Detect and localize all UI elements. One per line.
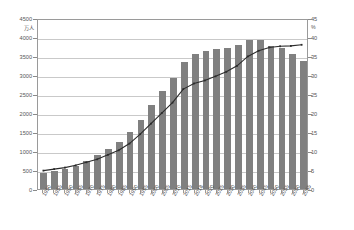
right-axis-tick-label: 20 xyxy=(311,111,333,117)
line-marker xyxy=(204,80,206,82)
line-marker xyxy=(193,83,195,85)
left-axis-tick xyxy=(33,133,37,134)
left-axis-tick xyxy=(33,19,37,20)
right-axis-tick-label: 30 xyxy=(311,73,333,79)
left-axis-tick xyxy=(33,190,37,191)
line-marker xyxy=(96,158,98,160)
line-marker xyxy=(215,75,217,77)
right-axis-tick-label: 45 xyxy=(311,16,333,22)
line-marker xyxy=(236,65,238,67)
line-marker xyxy=(301,44,303,46)
right-axis-tick xyxy=(308,19,312,20)
right-axis-tick xyxy=(308,190,312,191)
left-axis-tick xyxy=(33,38,37,39)
left-axis-tick xyxy=(33,76,37,77)
line-marker xyxy=(268,47,270,49)
line-marker xyxy=(53,168,55,170)
left-axis-tick xyxy=(33,171,37,172)
line-marker xyxy=(118,149,120,151)
line-marker xyxy=(290,45,292,47)
right-axis-tick xyxy=(308,171,312,172)
right-axis-tick xyxy=(308,76,312,77)
line-marker xyxy=(139,133,141,135)
right-axis-tick-label: 35 xyxy=(311,54,333,60)
line-marker xyxy=(161,112,163,114)
right-axis-tick xyxy=(308,38,312,39)
right-axis-tick-label: 25 xyxy=(311,92,333,98)
left-axis-unit-label: 万人 xyxy=(10,24,34,31)
line-marker xyxy=(75,164,77,166)
plot-area xyxy=(37,19,308,190)
left-axis-tick-label: 2000 xyxy=(6,111,32,117)
line-marker xyxy=(107,154,109,156)
left-axis-tick-label: 4500 xyxy=(6,16,32,22)
line-marker xyxy=(86,161,88,163)
line-marker xyxy=(182,88,184,90)
left-axis-tick-label: 0 xyxy=(6,187,32,193)
right-axis-tick xyxy=(308,133,312,134)
right-axis-tick xyxy=(308,114,312,115)
line-marker xyxy=(172,102,174,104)
right-axis-tick xyxy=(308,152,312,153)
left-axis-tick xyxy=(33,114,37,115)
right-axis-tick-label: 40 xyxy=(311,35,333,41)
right-axis-tick-label: 5 xyxy=(311,168,333,174)
right-axis-unit-label: % xyxy=(311,24,316,30)
line-marker xyxy=(129,143,131,145)
line-series xyxy=(38,20,307,189)
left-axis-tick-label: 1000 xyxy=(6,149,32,155)
right-axis-tick-label: 0 xyxy=(311,187,333,193)
left-axis-tick-label: 3000 xyxy=(6,73,32,79)
line-marker xyxy=(42,170,44,172)
left-axis-tick xyxy=(33,152,37,153)
chart-container: 万人 % 割合 19501955196019651970197519801985… xyxy=(0,0,354,230)
left-axis-tick-label: 1500 xyxy=(6,130,32,136)
left-axis-tick-label: 2500 xyxy=(6,92,32,98)
left-axis-tick-label: 4000 xyxy=(6,35,32,41)
line-marker xyxy=(258,50,260,52)
right-axis-tick xyxy=(308,57,312,58)
line-marker xyxy=(247,56,249,58)
left-axis-tick-label: 500 xyxy=(6,168,32,174)
left-axis-tick xyxy=(33,57,37,58)
right-axis-tick-label: 10 xyxy=(311,149,333,155)
left-axis-tick xyxy=(33,95,37,96)
line-marker xyxy=(279,45,281,47)
line-marker xyxy=(64,167,66,169)
line-marker xyxy=(225,71,227,73)
left-axis-tick-label: 3500 xyxy=(6,54,32,60)
right-axis-tick-label: 15 xyxy=(311,130,333,136)
ratio-line xyxy=(43,45,301,171)
x-axis-labels: 1950195519601965197019751980198519901995… xyxy=(37,190,308,230)
right-axis-tick xyxy=(308,95,312,96)
line-marker xyxy=(150,123,152,125)
